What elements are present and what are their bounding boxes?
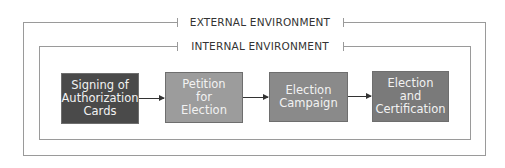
arrow-icon: [243, 97, 268, 98]
arrow-icon: [348, 96, 371, 97]
arrow-icon: [139, 98, 164, 99]
step-election-and-certification: Election and Certification: [372, 71, 449, 122]
internal-environment-label: INTERNAL ENVIRONMENT: [177, 40, 343, 52]
external-environment-label: EXTERNAL ENVIRONMENT: [177, 16, 343, 28]
step-signing-authorization-cards: Signing of Authorization Cards: [61, 73, 139, 124]
step-election-campaign: Election Campaign: [269, 72, 348, 122]
step-petition-for-election: Petition for Election: [165, 72, 243, 123]
